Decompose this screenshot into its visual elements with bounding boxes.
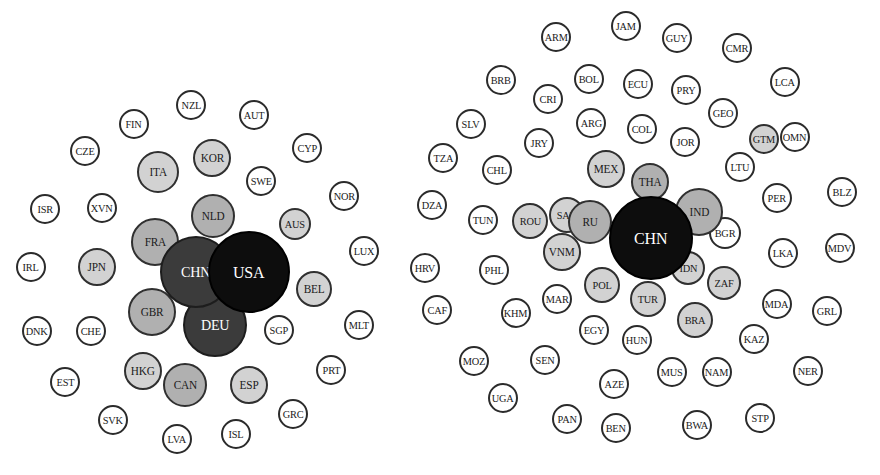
bubble-zaf[interactable]: ZAF bbox=[707, 266, 741, 300]
bubble-blz[interactable]: BLZ bbox=[827, 177, 857, 207]
bubble-jpn[interactable]: JPN bbox=[78, 248, 116, 286]
bubble-label: SGP bbox=[270, 325, 288, 336]
bubble-label: LKA bbox=[773, 248, 794, 259]
bubble-usa[interactable]: USA bbox=[208, 231, 290, 313]
bubble-cmr[interactable]: CMR bbox=[722, 33, 752, 63]
bubble-nam[interactable]: NAM bbox=[702, 357, 732, 387]
bubble-xvn[interactable]: XVN bbox=[87, 193, 117, 223]
bubble-label: EGY bbox=[584, 325, 605, 336]
bubble-mex[interactable]: MEX bbox=[587, 150, 625, 188]
bubble-nzl[interactable]: NZL bbox=[176, 90, 206, 120]
bubble-lux[interactable]: LUX bbox=[349, 236, 379, 266]
bubble-bel[interactable]: BEL bbox=[296, 271, 332, 307]
bubble-guy[interactable]: GUY bbox=[662, 23, 692, 53]
bubble-tur[interactable]: TUR bbox=[630, 281, 666, 317]
bubble-geo[interactable]: GEO bbox=[708, 98, 738, 128]
bubble-egy[interactable]: EGY bbox=[579, 315, 609, 345]
bubble-grc[interactable]: GRC bbox=[278, 399, 308, 429]
bubble-aze[interactable]: AZE bbox=[599, 369, 629, 399]
bubble-est[interactable]: EST bbox=[50, 367, 80, 397]
bubble-cze[interactable]: CZE bbox=[70, 136, 100, 166]
bubble-mar[interactable]: MAR bbox=[542, 284, 572, 314]
bubble-prt[interactable]: PRT bbox=[316, 355, 346, 385]
bubble-lca[interactable]: LCA bbox=[770, 67, 800, 97]
bubble-pan[interactable]: PAN bbox=[552, 404, 582, 434]
bubble-slv[interactable]: SLV bbox=[456, 109, 486, 139]
bubble-brb[interactable]: BRB bbox=[486, 65, 516, 95]
bubble-grl[interactable]: GRL bbox=[812, 296, 842, 326]
bubble-hrv[interactable]: HRV bbox=[410, 253, 440, 283]
bubble-per[interactable]: PER bbox=[762, 183, 792, 213]
bubble-phl[interactable]: PHL bbox=[479, 255, 509, 285]
bubble-lva[interactable]: LVA bbox=[162, 424, 192, 454]
bubble-kaz[interactable]: KAZ bbox=[739, 324, 769, 354]
bubble-dnk[interactable]: DNK bbox=[22, 316, 52, 346]
bubble-che[interactable]: CHE bbox=[76, 316, 106, 346]
bubble-bwa[interactable]: BWA bbox=[682, 410, 712, 440]
bubble-label: KHM bbox=[504, 308, 528, 319]
bubble-stp[interactable]: STP bbox=[745, 403, 775, 433]
bubble-gtm[interactable]: GTM bbox=[749, 124, 779, 154]
bubble-aut[interactable]: AUT bbox=[239, 100, 269, 130]
bubble-caf[interactable]: CAF bbox=[422, 295, 452, 325]
bubble-bra[interactable]: BRA bbox=[677, 302, 713, 338]
bubble-jam[interactable]: JAM bbox=[611, 11, 641, 41]
bubble-label: AUT bbox=[244, 110, 265, 121]
bubble-ltu[interactable]: LTU bbox=[725, 152, 755, 182]
bubble-col[interactable]: COL bbox=[627, 114, 657, 144]
bubble-chl[interactable]: CHL bbox=[482, 155, 512, 185]
bubble-mdv[interactable]: MDV bbox=[825, 233, 855, 263]
bubble-khm[interactable]: KHM bbox=[501, 298, 531, 328]
bubble-mda[interactable]: MDA bbox=[762, 289, 792, 319]
bubble-uga[interactable]: UGA bbox=[488, 383, 518, 413]
bubble-dza[interactable]: DZA bbox=[417, 190, 447, 220]
bubble-hkg[interactable]: HKG bbox=[124, 352, 162, 390]
bubble-hun[interactable]: HUN bbox=[622, 325, 652, 355]
bubble-label: NOR bbox=[333, 191, 354, 202]
bubble-sgp[interactable]: SGP bbox=[264, 315, 294, 345]
bubble-ben[interactable]: BEN bbox=[601, 413, 631, 443]
bubble-kor[interactable]: KOR bbox=[193, 139, 231, 177]
bubble-bol[interactable]: BOL bbox=[574, 64, 604, 94]
bubble-label: NER bbox=[798, 366, 818, 377]
bubble-ner[interactable]: NER bbox=[793, 356, 823, 386]
bubble-svk[interactable]: SVK bbox=[98, 405, 128, 435]
bubble-sen[interactable]: SEN bbox=[530, 345, 560, 375]
bubble-label: MEX bbox=[594, 163, 619, 175]
bubble-isl[interactable]: ISL bbox=[221, 419, 251, 449]
bubble-label: NLD bbox=[202, 210, 225, 222]
bubble-tza[interactable]: TZA bbox=[428, 143, 458, 173]
bubble-esp[interactable]: ESP bbox=[230, 366, 268, 404]
bubble-fin[interactable]: FIN bbox=[119, 109, 149, 139]
bubble-can[interactable]: CAN bbox=[163, 363, 207, 407]
bubble-swe[interactable]: SWE bbox=[246, 166, 276, 196]
bubble-lka[interactable]: LKA bbox=[768, 238, 798, 268]
bubble-arm[interactable]: ARM bbox=[541, 22, 571, 52]
bubble-irl[interactable]: IRL bbox=[16, 252, 46, 282]
bubble-ita[interactable]: ITA bbox=[137, 151, 179, 193]
bubble-nld[interactable]: NLD bbox=[191, 194, 235, 238]
bubble-nor[interactable]: NOR bbox=[329, 181, 359, 211]
bubble-mlt[interactable]: MLT bbox=[344, 310, 374, 340]
bubble-isr[interactable]: ISR bbox=[30, 194, 60, 224]
bubble-omn[interactable]: OMN bbox=[780, 122, 810, 152]
bubble-label: XVN bbox=[91, 203, 113, 214]
bubble-moz[interactable]: MOZ bbox=[459, 346, 489, 376]
bubble-pry[interactable]: PRY bbox=[671, 75, 701, 105]
bubble-chn[interactable]: CHN bbox=[609, 196, 693, 280]
bubble-rou[interactable]: ROU bbox=[512, 203, 548, 239]
bubble-jor[interactable]: JOR bbox=[670, 127, 700, 157]
bubble-label: LTU bbox=[731, 162, 750, 173]
bubble-label: DZA bbox=[422, 200, 443, 211]
bubble-ru[interactable]: RU bbox=[568, 200, 612, 244]
bubble-pol[interactable]: POL bbox=[584, 267, 620, 303]
bubble-mus[interactable]: MUS bbox=[657, 357, 687, 387]
bubble-tun[interactable]: TUN bbox=[468, 205, 498, 235]
bubble-arg[interactable]: ARG bbox=[576, 108, 606, 138]
bubble-ecu[interactable]: ECU bbox=[623, 69, 653, 99]
bubble-label: PRY bbox=[676, 85, 695, 96]
bubble-aus[interactable]: AUS bbox=[279, 208, 311, 240]
bubble-cri[interactable]: CRI bbox=[533, 84, 563, 114]
bubble-jry[interactable]: JRY bbox=[524, 128, 554, 158]
bubble-cyp[interactable]: CYP bbox=[292, 133, 322, 163]
